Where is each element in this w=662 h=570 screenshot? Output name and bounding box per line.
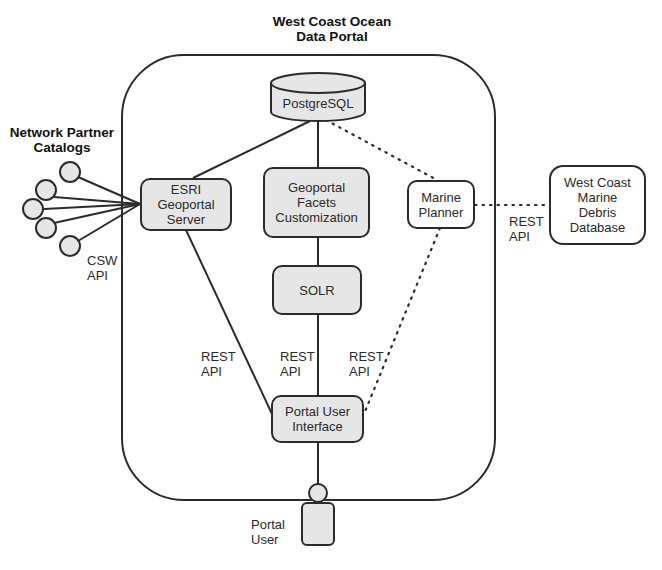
rest-api-label-debris: REST API bbox=[509, 214, 544, 244]
edge-marine-portalui bbox=[364, 228, 440, 414]
catalog-node-icon bbox=[36, 180, 56, 200]
esri-geoportal-server-node: ESRI Geoportal Server bbox=[140, 178, 232, 231]
rest-api-label-solr: REST API bbox=[280, 349, 315, 379]
catalog-node-icon bbox=[36, 218, 56, 238]
portal-user-icon bbox=[302, 484, 334, 545]
rest-api-label-esri: REST API bbox=[201, 349, 236, 379]
edge-esri-portalui bbox=[186, 230, 272, 414]
postgresql-label: PostgreSQL bbox=[271, 96, 365, 111]
geoportal-facets-node: Geoportal Facets Customization bbox=[263, 167, 370, 238]
catalog-node-icon bbox=[60, 236, 80, 256]
csw-api-label: CSW API bbox=[87, 253, 117, 283]
marine-debris-database-node: West Coast Marine Debris Database bbox=[549, 165, 646, 245]
catalog-node-icon bbox=[23, 199, 43, 219]
portal-user-label: Portal User bbox=[251, 517, 285, 547]
partners-title: Network Partner Catalogs bbox=[2, 125, 122, 155]
rest-api-label-marine: REST API bbox=[349, 349, 384, 379]
marine-planner-node: Marine Planner bbox=[407, 180, 475, 229]
catalog-node-icon bbox=[60, 162, 80, 182]
portal-title: West Coast Ocean Data Portal bbox=[232, 14, 432, 44]
portal-user-interface-node: Portal User Interface bbox=[271, 395, 364, 443]
solr-node: SOLR bbox=[272, 265, 362, 315]
